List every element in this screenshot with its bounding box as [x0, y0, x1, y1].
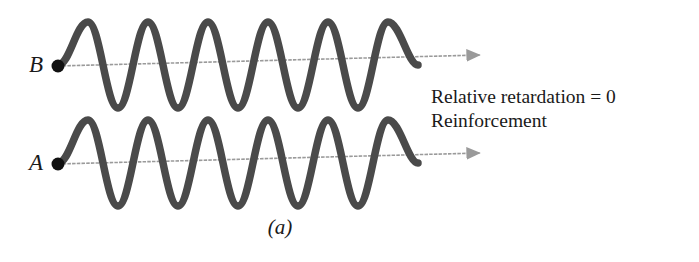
annotation-line-reinforcement: Reinforcement: [431, 109, 616, 133]
figure-caption: (a): [0, 215, 560, 240]
annotation-line-retardation: Relative retardation = 0: [431, 85, 616, 109]
wave-label-a: A: [29, 151, 43, 174]
annotation-text-block: Relative retardation = 0 Reinforcement: [431, 85, 616, 134]
wave-interference-figure: B A Relative retardation = 0 Reinforceme…: [0, 0, 699, 262]
origin-dot-A: [52, 158, 65, 171]
wave-label-b: B: [29, 53, 43, 76]
origin-dot-B: [52, 60, 65, 73]
